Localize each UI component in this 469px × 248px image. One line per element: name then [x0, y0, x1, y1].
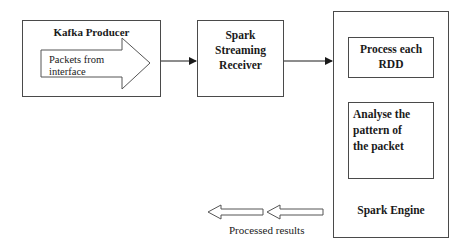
receiver-line2: Streaming — [198, 43, 283, 58]
spark-engine-title: Spark Engine — [334, 203, 448, 218]
receiver-line3: Receiver — [198, 58, 283, 73]
process-rdd-box: Process each RDD — [348, 37, 434, 78]
spark-engine-box: Process each RDD Analyse the pattern of … — [333, 11, 449, 238]
process-rdd-line2: RDD — [349, 57, 433, 72]
analyse-line2: pattern of — [353, 123, 402, 138]
packets-label-line2: interface — [49, 65, 86, 78]
analyse-pattern-box: Analyse the pattern of the packet — [348, 102, 434, 179]
processed-results-label: Processed results — [229, 224, 304, 237]
analyse-line3: the packet — [353, 139, 404, 154]
spark-streaming-receiver-box: Spark Streaming Receiver — [197, 20, 284, 97]
analyse-line1: Analyse the — [353, 107, 410, 122]
process-rdd-line1: Process each — [349, 42, 433, 57]
receiver-line1: Spark — [198, 28, 283, 43]
